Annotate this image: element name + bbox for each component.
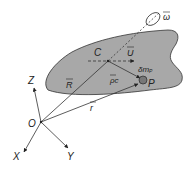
y-axis <box>41 122 68 148</box>
center-c-point <box>107 60 109 62</box>
omega-label: ω <box>163 12 170 22</box>
rho-label: ρc <box>109 76 119 85</box>
particle-label: P <box>148 78 155 89</box>
vector-r-label: r <box>90 103 94 113</box>
z-axis <box>34 88 41 122</box>
origin-point <box>40 121 42 123</box>
center-label: C <box>94 47 102 58</box>
x-label: X <box>12 151 20 162</box>
y-label: Y <box>67 151 75 162</box>
origin-label: O <box>28 118 36 129</box>
particle-p <box>139 76 147 84</box>
vector-r-big-label: R <box>66 80 73 90</box>
z-label: Z <box>27 75 35 86</box>
u-label: U <box>127 48 134 58</box>
rigid-body-diagram: Z X Y O C P R r ρc U ω δmP <box>0 0 194 170</box>
